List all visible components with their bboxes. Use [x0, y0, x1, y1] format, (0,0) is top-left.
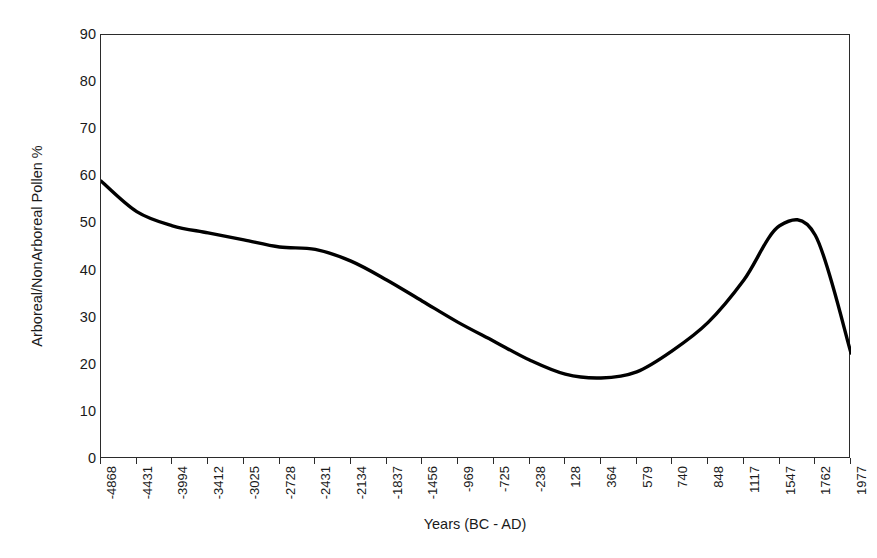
x-axis-title: Years (BC - AD): [100, 516, 850, 532]
x-tick-mark: [314, 458, 315, 464]
x-tick-label: 364: [605, 466, 619, 512]
y-tick-label: 80: [62, 74, 96, 88]
x-tick-label: -1837: [391, 466, 405, 512]
y-tick-label: 50: [62, 215, 96, 229]
x-tick-label: 1977: [855, 466, 869, 512]
x-axis-tick-labels: -4868-4431-3994-3412-3025-2728-2431-2134…: [100, 466, 850, 512]
x-tick-label: -238: [534, 466, 548, 512]
x-tick-mark: [243, 458, 244, 464]
y-axis-title: Arboreal/NonArboreal Pollen %: [26, 34, 48, 458]
x-tick-label: -2134: [355, 466, 369, 512]
x-tick-mark: [671, 458, 672, 464]
x-tick-mark: [171, 458, 172, 464]
y-tick-label: 40: [62, 263, 96, 277]
y-tick-label: 30: [62, 310, 96, 324]
x-tick-label: -4431: [141, 466, 155, 512]
y-tick-label: 10: [62, 404, 96, 418]
x-tick-label: 848: [712, 466, 726, 512]
y-tick-label: 90: [62, 27, 96, 41]
x-tick-label: -1456: [426, 466, 440, 512]
data-line-series: [101, 35, 851, 459]
x-tick-mark: [779, 458, 780, 464]
x-tick-mark: [564, 458, 565, 464]
x-tick-label: 1117: [748, 466, 762, 512]
x-tick-label: -969: [462, 466, 476, 512]
y-tick-label: 0: [62, 451, 96, 465]
x-tick-mark: [386, 458, 387, 464]
x-tick-mark: [279, 458, 280, 464]
x-tick-label: 1762: [819, 466, 833, 512]
x-tick-mark: [600, 458, 601, 464]
x-tick-mark: [493, 458, 494, 464]
pollen-curve: [101, 181, 851, 378]
y-axis-tick-labels: 9080706050403020100: [58, 0, 96, 558]
x-tick-label: -2728: [284, 466, 298, 512]
y-tick-label: 60: [62, 168, 96, 182]
x-tick-mark: [707, 458, 708, 464]
y-tick-label: 70: [62, 121, 96, 135]
chart-figure: Arboreal/NonArboreal Pollen % 9080706050…: [0, 0, 877, 558]
x-tick-label: 1547: [784, 466, 798, 512]
x-tick-mark: [814, 458, 815, 464]
plot-area: [100, 34, 850, 458]
x-tick-label: -2431: [319, 466, 333, 512]
x-tick-label: -3994: [176, 466, 190, 512]
x-tick-label: 579: [641, 466, 655, 512]
x-tick-label: 128: [569, 466, 583, 512]
x-tick-mark: [743, 458, 744, 464]
x-tick-mark: [421, 458, 422, 464]
x-tick-mark: [350, 458, 351, 464]
x-tick-label: -4868: [105, 466, 119, 512]
x-tick-label: -3412: [212, 466, 226, 512]
x-tick-mark: [850, 458, 851, 464]
x-tick-label: -725: [498, 466, 512, 512]
x-tick-mark: [529, 458, 530, 464]
x-tick-label: -3025: [248, 466, 262, 512]
x-tick-label: 740: [676, 466, 690, 512]
x-tick-mark: [100, 458, 101, 464]
x-tick-mark: [457, 458, 458, 464]
x-tick-mark: [207, 458, 208, 464]
y-tick-label: 20: [62, 357, 96, 371]
x-tick-mark: [636, 458, 637, 464]
x-tick-mark: [136, 458, 137, 464]
